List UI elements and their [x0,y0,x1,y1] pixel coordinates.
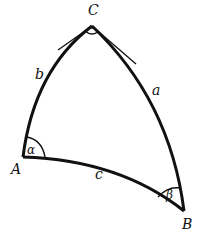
spherical-triangle-diagram: C A B b a c α β [0,0,202,240]
vertex-label-c: C [88,2,99,18]
vertex-label-a: A [9,161,21,177]
side-b-arc [23,26,92,157]
side-label-c: c [95,166,103,182]
angle-label-alpha: α [27,143,35,157]
angle-label-beta: β [165,188,173,202]
side-label-a: a [152,82,160,98]
tangent-line-b [58,26,92,50]
vertex-label-b: B [181,216,192,232]
angle-c-dot [91,26,94,29]
side-label-b: b [35,66,44,82]
side-c-arc [23,157,184,211]
